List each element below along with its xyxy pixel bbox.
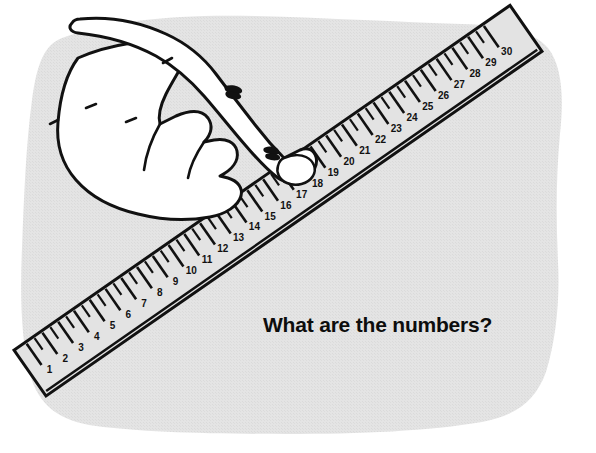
- ruler-number-15: 15: [265, 211, 277, 222]
- ruler-number-22: 22: [375, 134, 387, 145]
- illustration-svg: 1234567891011121314151617181920212223242…: [0, 0, 596, 453]
- ruler-number-10: 10: [186, 265, 198, 276]
- ruler-number-23: 23: [391, 123, 403, 134]
- ruler-number-30: 30: [501, 46, 513, 57]
- ruler-number-12: 12: [217, 243, 229, 254]
- ruler-number-7: 7: [141, 298, 147, 309]
- ruler-number-8: 8: [157, 287, 163, 298]
- ruler-number-20: 20: [343, 156, 355, 167]
- ruler-number-2: 2: [62, 353, 68, 364]
- ruler-number-13: 13: [233, 232, 245, 243]
- ruler-number-27: 27: [454, 79, 466, 90]
- ruler-number-28: 28: [470, 68, 482, 79]
- ruler-number-26: 26: [438, 90, 450, 101]
- ruler-number-29: 29: [485, 57, 497, 68]
- ruler-number-4: 4: [94, 331, 100, 342]
- ruler-number-3: 3: [78, 342, 84, 353]
- ruler-number-6: 6: [125, 309, 131, 320]
- ruler-number-24: 24: [406, 112, 418, 123]
- ruler-number-11: 11: [202, 254, 213, 265]
- ruler-number-21: 21: [359, 145, 371, 156]
- ruler-number-5: 5: [110, 320, 116, 331]
- ruler-number-19: 19: [328, 167, 340, 178]
- fingertip-nail: [277, 155, 314, 185]
- ruler-number-9: 9: [173, 276, 179, 287]
- ruler-number-16: 16: [280, 200, 292, 211]
- ruler-number-18: 18: [312, 178, 324, 189]
- ruler-number-25: 25: [422, 101, 434, 112]
- ruler-number-14: 14: [249, 221, 261, 232]
- ruler-number-17: 17: [296, 189, 308, 200]
- illustration-canvas: 1234567891011121314151617181920212223242…: [0, 0, 596, 453]
- question-caption: What are the numbers?: [263, 313, 492, 337]
- ruler-number-1: 1: [47, 364, 53, 375]
